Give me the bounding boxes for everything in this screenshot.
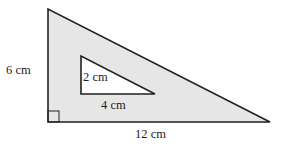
diagram-canvas: 6 cm 12 cm 2 cm 4 cm bbox=[0, 0, 289, 149]
inner-base-label: 4 cm bbox=[101, 98, 126, 112]
inner-height-label: 2 cm bbox=[83, 70, 108, 84]
outer-base-label: 12 cm bbox=[135, 127, 166, 141]
outer-height-label: 6 cm bbox=[6, 63, 31, 77]
